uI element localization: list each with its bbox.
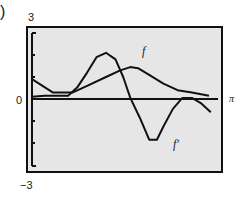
curve-label-fprime: f′: [173, 138, 179, 150]
plot-svg: [0, 0, 244, 197]
curve-label-f: f: [142, 45, 145, 57]
